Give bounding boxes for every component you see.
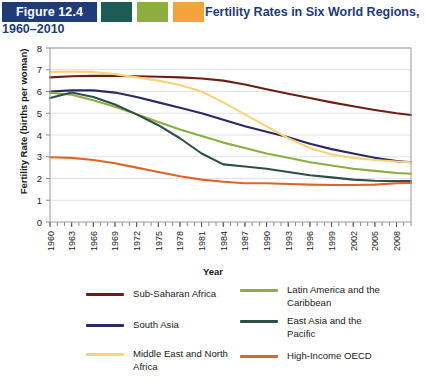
svg-text:8: 8	[37, 43, 42, 54]
figure-title-line-2: 1960–2010	[2, 22, 65, 36]
header-swatch-orange	[173, 2, 204, 22]
legend-item-label: Middle East and North Africa	[133, 348, 228, 373]
svg-text:2: 2	[37, 173, 42, 184]
figure-title-line-1: Fertility Rates in Six World Regions,	[205, 5, 419, 19]
line-chart: 012345678 196019631966196919721975197819…	[0, 38, 426, 278]
y-axis-ticks: 012345678	[37, 43, 50, 228]
svg-text:1984: 1984	[219, 231, 229, 251]
x-axis-label: Year	[0, 266, 426, 277]
svg-text:1966: 1966	[89, 231, 99, 251]
chart-legend: Sub-Saharan AfricaSouth AsiaMiddle East …	[0, 286, 426, 376]
svg-text:1978: 1978	[175, 231, 185, 251]
svg-text:1969: 1969	[110, 231, 120, 251]
gridlines	[50, 48, 411, 200]
svg-text:6: 6	[37, 86, 42, 97]
svg-text:1963: 1963	[67, 231, 77, 251]
series-line	[50, 71, 411, 162]
page-footer-sliver	[0, 379, 426, 384]
legend-item[interactable]: High-Income OECD	[240, 350, 372, 363]
legend-color-swatch	[86, 324, 124, 327]
svg-text:2005: 2005	[370, 231, 380, 251]
legend-color-swatch	[240, 289, 278, 292]
x-axis-ticks: 1960196319661969197219751978198119841987…	[46, 222, 412, 251]
legend-item-label: Sub-Saharan Africa	[133, 288, 216, 301]
legend-color-swatch	[86, 353, 124, 356]
svg-text:1993: 1993	[284, 231, 294, 251]
legend-item-label: High-Income OECD	[287, 350, 372, 363]
header-swatch-teal	[101, 2, 132, 22]
svg-text:1999: 1999	[327, 231, 337, 251]
plot-area: Fertility Rate (births per woman) 012345…	[0, 38, 426, 278]
svg-text:5: 5	[37, 108, 42, 119]
legend-color-swatch	[86, 293, 124, 296]
legend-item[interactable]: South Asia	[86, 319, 179, 332]
legend-item-label: South Asia	[133, 319, 179, 332]
legend-color-swatch	[240, 355, 278, 358]
svg-text:2002: 2002	[349, 231, 359, 251]
svg-text:4: 4	[37, 130, 42, 141]
legend-item[interactable]: Sub-Saharan Africa	[86, 288, 216, 301]
svg-text:1987: 1987	[240, 231, 250, 251]
figure-header: Figure 12.4 Fertility Rates in Six World…	[0, 0, 426, 38]
series-line	[50, 76, 411, 115]
legend-item[interactable]: East Asia and the Pacific	[240, 315, 362, 340]
svg-text:3: 3	[37, 151, 42, 162]
svg-text:1: 1	[37, 195, 42, 206]
legend-item-label: East Asia and the Pacific	[287, 315, 362, 340]
header-swatch-green	[137, 2, 168, 22]
svg-text:1975: 1975	[154, 231, 164, 251]
svg-text:7: 7	[37, 64, 42, 75]
svg-text:1981: 1981	[197, 231, 207, 251]
legend-item[interactable]: Middle East and North Africa	[86, 348, 228, 373]
series-line	[50, 157, 411, 185]
figure-container: Figure 12.4 Fertility Rates in Six World…	[0, 0, 426, 384]
legend-color-swatch	[240, 320, 278, 323]
figure-number-badge: Figure 12.4	[2, 2, 97, 22]
svg-text:1990: 1990	[262, 231, 272, 251]
svg-text:1960: 1960	[46, 231, 56, 251]
svg-text:1996: 1996	[305, 231, 315, 251]
svg-text:2008: 2008	[392, 231, 402, 251]
legend-item[interactable]: Latin America and the Caribbean	[240, 284, 380, 309]
svg-text:1972: 1972	[132, 231, 142, 251]
legend-item-label: Latin America and the Caribbean	[287, 284, 380, 309]
data-series-group	[50, 71, 411, 185]
svg-text:0: 0	[37, 217, 42, 228]
